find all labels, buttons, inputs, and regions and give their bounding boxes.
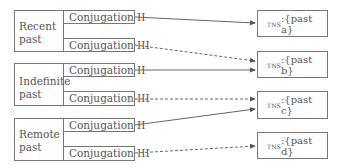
arrows-layer — [0, 0, 337, 168]
edge-remote-iii-to-past-d — [135, 146, 255, 153]
edge-recent-iii-to-past-b — [135, 45, 255, 61]
edge-remote-ii-to-past-c — [135, 109, 255, 125]
edge-recent-ii-to-past-a — [135, 17, 255, 23]
